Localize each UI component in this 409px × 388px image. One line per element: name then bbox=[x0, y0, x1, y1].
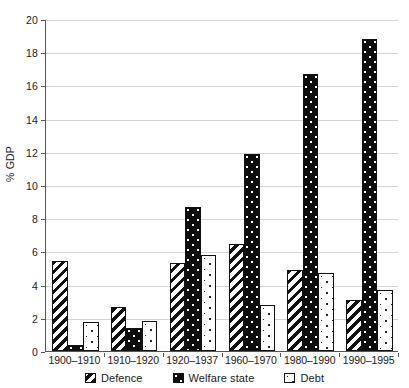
y-tick-label: 4 bbox=[32, 281, 38, 291]
y-tick-label: 18 bbox=[26, 48, 38, 58]
legend-item-welfare-state[interactable]: Welfare state bbox=[173, 372, 255, 384]
y-tick-label: 2 bbox=[32, 314, 38, 324]
bar-defence bbox=[346, 300, 362, 351]
bar-welfare-state bbox=[185, 207, 201, 351]
legend-item-debt[interactable]: Debt bbox=[284, 372, 324, 384]
bar-defence bbox=[52, 261, 68, 351]
bar-group bbox=[281, 20, 340, 351]
legend-item-label: Debt bbox=[300, 372, 324, 384]
bar-group bbox=[340, 20, 399, 351]
x-tick-label: 1960–1970 bbox=[222, 355, 281, 366]
bar-debt bbox=[260, 305, 276, 351]
y-tick-label: 14 bbox=[26, 115, 38, 125]
x-tick-label: 1920–1937 bbox=[163, 355, 222, 366]
x-tick-label: 1900–1910 bbox=[45, 355, 104, 366]
bar-group bbox=[46, 20, 105, 351]
bar-group bbox=[223, 20, 282, 351]
x-tick-label: 1910–1920 bbox=[104, 355, 163, 366]
y-tick-label: 16 bbox=[26, 81, 38, 91]
y-tick-label: 12 bbox=[26, 148, 38, 158]
bar-group bbox=[105, 20, 164, 351]
legend-swatch-icon bbox=[284, 373, 295, 383]
y-tick-label: 0 bbox=[32, 347, 38, 357]
bar-debt bbox=[318, 273, 334, 351]
bar-defence bbox=[170, 263, 186, 351]
y-tick-label: 8 bbox=[32, 214, 38, 224]
legend-swatch-icon bbox=[173, 373, 184, 383]
bar-group bbox=[164, 20, 223, 351]
chart-legend: DefenceWelfare stateDebt bbox=[0, 367, 409, 388]
bar-welfare-state bbox=[68, 345, 84, 351]
bar-defence bbox=[111, 307, 127, 351]
y-axis-title: % GDP bbox=[4, 134, 16, 194]
bar-chart: 02468101214161820% GDP 1900–19101910–192… bbox=[0, 0, 409, 388]
bar-defence bbox=[287, 270, 303, 351]
x-tick-mark bbox=[398, 353, 399, 357]
y-tick-label: 6 bbox=[32, 247, 38, 257]
bar-defence bbox=[229, 244, 245, 351]
plot-area bbox=[45, 20, 398, 352]
legend-item-label: Welfare state bbox=[189, 372, 255, 384]
x-tick-label: 1980–1990 bbox=[280, 355, 339, 366]
bar-welfare-state bbox=[126, 328, 142, 351]
bar-welfare-state bbox=[303, 74, 319, 351]
legend-item-defence[interactable]: Defence bbox=[85, 372, 143, 384]
bars-layer bbox=[46, 20, 398, 351]
legend-item-label: Defence bbox=[101, 372, 143, 384]
bar-debt bbox=[377, 290, 393, 351]
y-tick-label: 10 bbox=[26, 181, 38, 191]
bar-debt bbox=[142, 321, 158, 351]
y-tick-label: 20 bbox=[26, 15, 38, 25]
bar-welfare-state bbox=[362, 39, 378, 351]
bar-debt bbox=[83, 322, 99, 351]
bar-welfare-state bbox=[244, 154, 260, 351]
bar-debt bbox=[201, 255, 217, 351]
legend-swatch-icon bbox=[85, 373, 96, 383]
y-axis: 02468101214161820% GDP bbox=[0, 0, 45, 352]
x-tick-label: 1990–1995 bbox=[339, 355, 398, 366]
